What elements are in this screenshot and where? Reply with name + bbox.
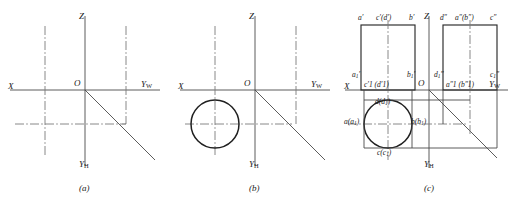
projection-drawing-canvas: .ln { stroke:#4a4a4a; stroke-width:0.9; … (0, 0, 514, 202)
panel-a-caption: (a) (79, 184, 90, 193)
panel-c-label-x: X (344, 82, 350, 91)
panel-c-label-a-a1: a(a1) (344, 118, 359, 127)
panel-c-label-c1-dprime: c1″ (490, 71, 499, 80)
panel-c-geometry (345, 16, 508, 168)
panel-c-label-a-prime: a′ (358, 14, 363, 22)
panel-a-label-z: Z (79, 12, 84, 21)
panel-a-label-yw: YW (141, 80, 152, 90)
panel-a-geometry (10, 16, 160, 166)
panel-b-label-x: X (178, 82, 184, 91)
panel-b-bisector-45 (255, 90, 325, 160)
panel-c-label-b-b1: b(b1) (411, 118, 426, 127)
panel-a-label-x: X (8, 82, 14, 91)
panel-c-label-c-c1: c(c1) (377, 149, 391, 158)
panel-b-label-z: Z (249, 12, 254, 21)
panel-b-label-yh: YH (249, 160, 259, 170)
panel-c-label-a1-prime: a1′ (352, 71, 360, 80)
panel-c-label-c-dprime: c″ (490, 14, 496, 22)
panel-c-label-d-dprime: d″ (440, 14, 447, 22)
panel-c-label-c1d1-prime: c′1 (d′1) (364, 81, 389, 89)
panel-c-label-b-prime: b′ (409, 14, 414, 22)
panel-c-label-ab-dprime: a″(b″) (455, 14, 474, 22)
panel-b-caption: (b) (249, 184, 260, 193)
figure-root: .ln { stroke:#4a4a4a; stroke-width:0.9; … (0, 0, 514, 202)
panel-a-bisector-45 (85, 90, 155, 160)
panel-c-label-b1-prime: b1′ (407, 71, 415, 80)
panel-a-label-yh: YH (79, 160, 89, 170)
panel-c-label-origin: O (418, 79, 425, 88)
panel-b-label-yw: YW (311, 80, 322, 90)
panel-b-geometry (180, 16, 330, 166)
panel-a-label-origin: O (74, 79, 81, 88)
panel-b-label-origin: O (244, 79, 251, 88)
panel-c-label-yw: YW (489, 80, 500, 90)
panel-c-label-a1b1-dprime: a″1 (b″1) (446, 81, 474, 89)
panel-c-label-z: Z (424, 12, 429, 21)
panel-c-label-d1-dprime: d1″ (434, 71, 444, 80)
panel-c-label-d-d1: d(d1) (375, 98, 390, 107)
panel-c-label-cd-prime: c′(d′) (376, 14, 391, 22)
panel-c-label-yh: YH (424, 160, 434, 170)
panel-c-caption: (c) (424, 184, 434, 193)
